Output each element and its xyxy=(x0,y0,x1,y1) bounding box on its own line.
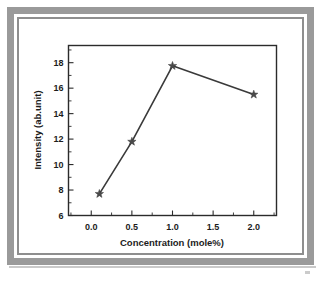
y-tick-label-18: 18 xyxy=(53,58,63,68)
data-point-marker xyxy=(168,61,176,69)
y-tick-label-8: 8 xyxy=(58,185,63,195)
data-series-group xyxy=(95,61,258,197)
x-tick-label-2.0: 2.0 xyxy=(247,222,260,232)
x-tick-label-0.0: 0.0 xyxy=(85,222,98,232)
series-line-intensity xyxy=(99,66,253,194)
data-point-marker xyxy=(128,137,136,145)
y-tick-label-12: 12 xyxy=(53,134,63,144)
y-tick-label-14: 14 xyxy=(53,109,63,119)
series-markers-intensity xyxy=(95,61,258,197)
x-tick-label-1.5: 1.5 xyxy=(207,222,220,232)
y-tick-label-16: 16 xyxy=(53,83,63,93)
chart-svg: 0.00.51.01.52.0 681012141618 Concentrati… xyxy=(0,0,325,281)
x-tick-label-0.5: 0.5 xyxy=(126,222,139,232)
data-point-marker xyxy=(250,90,258,98)
x-axis-title: Concentration (mole%) xyxy=(120,237,224,248)
x-tick-label-1.0: 1.0 xyxy=(166,222,179,232)
y-tick-label-10: 10 xyxy=(53,160,63,170)
y-axis-major-ticks xyxy=(69,63,74,216)
y-axis-tick-labels: 681012141618 xyxy=(53,58,63,221)
x-axis-major-ticks xyxy=(91,211,254,216)
y-axis-title: Intensity (ab.unit) xyxy=(32,90,43,169)
y-tick-label-6: 6 xyxy=(58,211,63,221)
line-chart: 0.00.51.01.52.0 681012141618 Concentrati… xyxy=(0,0,325,281)
x-axis-tick-labels: 0.00.51.01.52.0 xyxy=(85,222,260,232)
figure-page: 0.00.51.01.52.0 681012141618 Concentrati… xyxy=(0,0,325,281)
